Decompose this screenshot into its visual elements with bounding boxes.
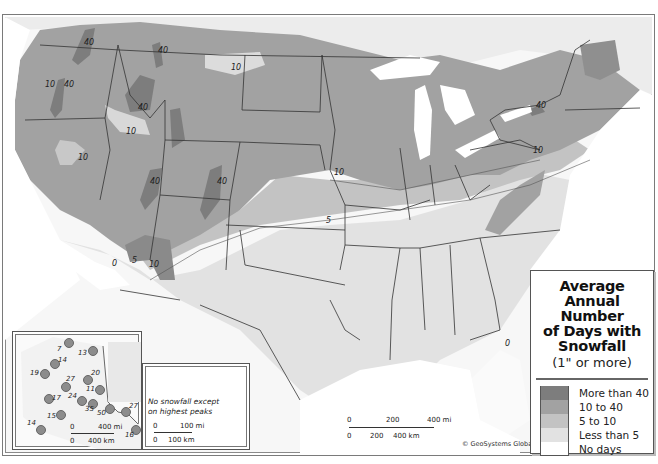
legend-divider [536,378,648,380]
station-marker [95,385,105,395]
legend-title-line: of Days with [531,324,653,339]
legend-item-10-to-40: 10 to 40 [540,400,653,414]
contour-label: 40 [217,177,227,186]
contour-label: 40 [536,101,546,110]
contour-label: 40 [84,38,94,47]
contour-label: 40 [138,103,148,112]
station-value: 35 [85,405,94,413]
contour-label: 0 [112,259,117,268]
station-value: 7 [57,345,61,353]
scale-km-200: 200 [370,432,383,440]
legend-swatch [540,442,569,456]
scale-mi-end: 400 mi [98,423,122,431]
legend-label: Less than 5 [579,429,639,441]
station-value: 11 [86,385,95,393]
contour-label: 10 [533,146,543,155]
legend-label: More than 40 [579,387,649,399]
legend-title-line: Number [531,309,653,324]
hawaii-note: No snowfall except on highest peaks [148,397,219,417]
station-marker [40,369,50,379]
contour-label: 40 [64,80,74,89]
contour-label: 10 [149,260,159,269]
legend-swatch [540,386,569,400]
station-value: 24 [68,392,77,400]
contour-label: 10 [45,80,55,89]
legend-title-line: Snowfall [531,339,653,354]
station-value: 19 [30,369,39,377]
station-value: 27 [66,375,75,383]
station-marker [56,410,66,420]
scale-mi-0: 0 [347,416,351,424]
contour-label: 40 [158,46,168,55]
legend-item-less-than-5: Less than 5 [540,428,653,442]
contour-label: 5 [132,256,137,265]
contour-label: 40 [150,177,160,186]
legend-swatch [540,414,569,428]
station-marker [36,425,46,435]
legend-item-no-days: No days [540,442,653,456]
scale-mi-200: 200 [386,416,399,424]
alaska-coast [13,332,141,449]
station-value: 16 [125,431,134,439]
station-value: 17 [52,394,61,402]
legend-swatch [540,400,569,414]
legend-item-more-than-40: More than 40 [540,386,653,400]
note-line: No snowfall except [148,397,219,407]
legend-label: 10 to 40 [579,401,623,413]
scale-km-end: 100 km [168,436,194,444]
legend-title-line: Average Annual [531,279,653,309]
contour-label: 10 [334,168,344,177]
station-value: 50 [97,409,106,417]
station-marker [61,382,71,392]
scale-mi-start: 0 [153,422,157,430]
station-marker [64,338,74,348]
contour-label: 10 [78,153,88,162]
scale-km-end: 400 km [88,437,114,445]
station-value: 20 [91,369,100,377]
scale-km-start: 0 [70,437,74,445]
station-value: 14 [27,419,36,427]
legend-title: Average Annual Number of Days with Snowf… [531,279,653,354]
contour-label: 5 [326,216,331,225]
contour-label: 10 [231,63,241,72]
station-value: 14 [58,356,67,364]
legend-label: No days [579,443,621,455]
legend-swatch [540,428,569,442]
scale-km-0: 0 [347,432,351,440]
legend-item-5-to-10: 5 to 10 [540,414,653,428]
station-value: 27 [129,402,138,410]
scale-mi-400: 400 mi [427,416,451,424]
station-value: 15 [47,412,56,420]
legend-subtitle: (1" or more) [531,355,653,370]
scale-mi-end: 100 mi [180,422,204,430]
station-value: 13 [78,349,87,357]
note-line: on highest peaks [148,407,219,417]
scale-mi-start: 0 [70,423,74,431]
contour-label: 0 [505,339,510,348]
scale-km-400: 400 km [393,432,419,440]
station-marker [105,404,115,414]
contour-label: 10 [126,127,136,136]
scale-km-start: 0 [153,436,157,444]
station-marker [88,346,98,356]
legend-label: 5 to 10 [579,415,616,427]
legend-box: Average Annual Number of Days with Snowf… [530,270,654,454]
